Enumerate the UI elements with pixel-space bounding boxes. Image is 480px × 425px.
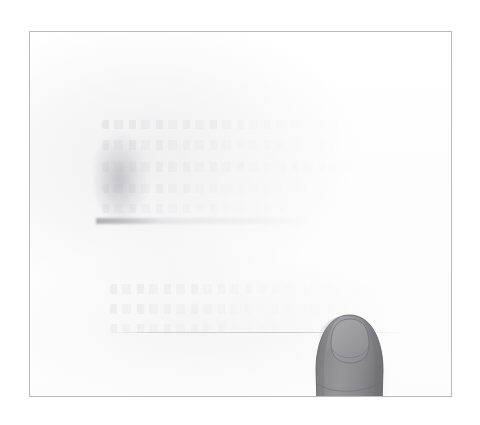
ghost-text-line	[110, 284, 378, 294]
ink-smudge	[94, 128, 160, 226]
screenshot-canvas	[0, 0, 480, 425]
ink-smudge-underline	[96, 218, 346, 224]
fingertip	[311, 300, 388, 397]
document-frame	[29, 31, 452, 397]
